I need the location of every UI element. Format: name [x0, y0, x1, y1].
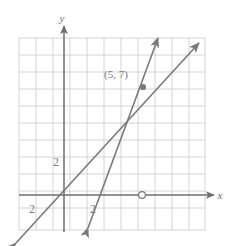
x-axis-label: x: [217, 189, 223, 201]
x-tick-label-negative-two: 2: [29, 202, 35, 216]
x-tick-label-positive-two: 2: [90, 202, 96, 216]
intersection-point-label: (5, 7): [104, 68, 128, 81]
graph-svg: y x (5, 7) 2 2 2: [0, 0, 233, 246]
y-axis-label: y: [59, 12, 65, 24]
open-circle-marker: [139, 192, 146, 199]
y-tick-label-positive-two: 2: [53, 155, 59, 169]
intersection-point-marker: [140, 84, 146, 90]
coordinate-plane-figure: y x (5, 7) 2 2 2: [0, 0, 233, 246]
